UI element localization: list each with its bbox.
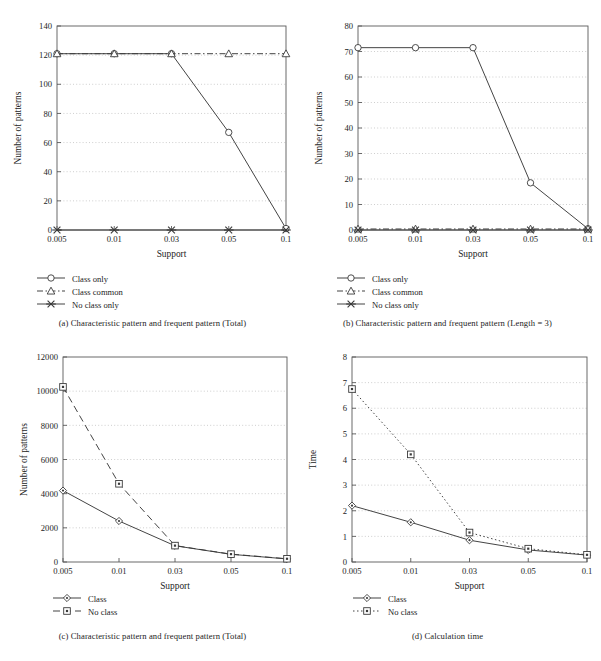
y-tick-label: 40 xyxy=(43,167,52,177)
data-point-square xyxy=(466,529,473,536)
legend-c: ClassNo class xyxy=(52,592,117,618)
x-tick-label: 0.01 xyxy=(408,234,423,244)
y-tick-label: 4 xyxy=(343,455,348,465)
x-tick-label: 0.01 xyxy=(403,566,418,576)
legend-a: Class onlyClass commonNo class only xyxy=(36,272,123,311)
data-point-triangle xyxy=(225,50,233,57)
y-tick-label: 50 xyxy=(344,98,353,108)
legend-key-triangle xyxy=(36,285,66,297)
legend-item[interactable]: No class xyxy=(52,605,117,618)
y-tick-label: 20 xyxy=(344,174,353,184)
legend-item[interactable]: Class common xyxy=(36,285,123,298)
x-tick-label: 0.005 xyxy=(342,566,361,576)
y-axis-label: Number of patterns xyxy=(19,423,29,496)
data-point-square xyxy=(364,607,371,614)
x-tick-label: 0.05 xyxy=(223,566,238,576)
y-tick-label: 20 xyxy=(43,196,52,206)
data-point-square xyxy=(172,542,179,549)
y-tick-label: 80 xyxy=(43,109,52,119)
x-tick-label: 0.05 xyxy=(221,234,236,244)
legend-key-triangle xyxy=(336,285,366,297)
y-tick-label: 140 xyxy=(39,21,52,31)
legend-marker xyxy=(336,298,366,312)
legend-key-square xyxy=(352,605,382,617)
y-tick-label: 80 xyxy=(344,21,353,31)
y-tick-label: 60 xyxy=(43,138,52,148)
data-point-square xyxy=(407,451,414,458)
y-tick-label: 10000 xyxy=(37,386,58,396)
x-tick-label: 0.1 xyxy=(583,234,594,244)
data-point-square xyxy=(228,551,235,558)
legend-label: Class xyxy=(382,594,407,604)
legend-key-cross xyxy=(36,298,66,310)
data-point-square xyxy=(64,607,71,614)
y-axis-label: Number of patterns xyxy=(13,91,23,164)
legend-item[interactable]: Class xyxy=(352,592,417,605)
y-tick-label: 30 xyxy=(344,149,353,159)
y-tick-label: 6 xyxy=(343,403,348,413)
y-axis-label: Number of patterns xyxy=(314,91,324,164)
data-point-square xyxy=(584,552,591,559)
legend-label: No class only xyxy=(366,300,419,310)
legend-item[interactable]: Class common xyxy=(336,285,423,298)
legend-marker xyxy=(336,272,366,286)
caption-a: (a) Characteristic pattern and frequent … xyxy=(10,318,295,328)
y-tick-label: 7 xyxy=(343,378,348,388)
x-tick-label: 0.05 xyxy=(523,234,538,244)
y-tick-label: 12000 xyxy=(37,352,58,362)
caption-d: (d) Calculation time xyxy=(300,631,595,641)
legend-item[interactable]: No class only xyxy=(336,298,423,311)
data-point-circle xyxy=(48,274,54,280)
x-tick-label: 0.03 xyxy=(462,566,477,576)
legend-marker xyxy=(52,605,82,619)
legend-label: Class only xyxy=(66,274,108,284)
x-axis-label: Support xyxy=(160,581,190,591)
legend-item[interactable]: Class only xyxy=(36,272,123,285)
x-tick-label: 0.03 xyxy=(167,566,182,576)
x-tick-label: 0.01 xyxy=(107,234,122,244)
data-point-circle xyxy=(355,44,361,50)
data-point-square xyxy=(284,555,291,562)
x-tick-label: 0.005 xyxy=(47,234,66,244)
caption-b: (b) Characteristic pattern and frequent … xyxy=(300,318,595,328)
legend-marker xyxy=(352,605,382,619)
y-tick-label: 120 xyxy=(39,50,52,60)
legend-marker xyxy=(352,592,382,606)
y-tick-label: 10 xyxy=(344,200,353,210)
y-tick-label: 100 xyxy=(39,79,52,89)
y-tick-label: 2000 xyxy=(41,523,58,533)
legend-key-square xyxy=(52,605,82,617)
y-tick-label: 8 xyxy=(343,352,347,362)
y-tick-label: 8000 xyxy=(41,421,58,431)
legend-item[interactable]: Class only xyxy=(336,272,423,285)
legend-key-circle xyxy=(336,272,366,284)
x-tick-label: 0.01 xyxy=(111,566,126,576)
data-point-cross xyxy=(346,300,356,307)
data-point-square xyxy=(525,545,532,552)
y-tick-label: 6000 xyxy=(41,455,58,465)
legend-item[interactable]: Class xyxy=(52,592,117,605)
legend-label: Class common xyxy=(366,287,423,297)
legend-label: Class xyxy=(82,594,107,604)
legend-item[interactable]: No class xyxy=(352,605,417,618)
series-line xyxy=(63,387,287,559)
legend-label: No class xyxy=(382,607,417,617)
legend-label: No class only xyxy=(66,300,119,310)
x-tick-label: 0.005 xyxy=(348,234,367,244)
legend-item[interactable]: No class only xyxy=(36,298,123,311)
panel-d: 0123456780.0050.010.030.050.1SupportTime xyxy=(300,330,601,661)
x-tick-label: 0.1 xyxy=(282,566,293,576)
x-axis-label: Support xyxy=(458,249,488,259)
x-axis-label: Support xyxy=(455,581,485,591)
data-point-square xyxy=(349,386,356,393)
data-point-square xyxy=(60,384,67,391)
legend-marker xyxy=(36,298,66,312)
x-tick-label: 0.005 xyxy=(53,566,72,576)
y-tick-label: 70 xyxy=(344,47,353,57)
data-point-cross xyxy=(46,300,56,307)
data-point-diamond xyxy=(466,537,473,544)
legend-label: Class common xyxy=(66,287,123,297)
y-tick-label: 2 xyxy=(343,506,347,516)
legend-label: No class xyxy=(82,607,117,617)
data-point-circle xyxy=(283,225,289,231)
